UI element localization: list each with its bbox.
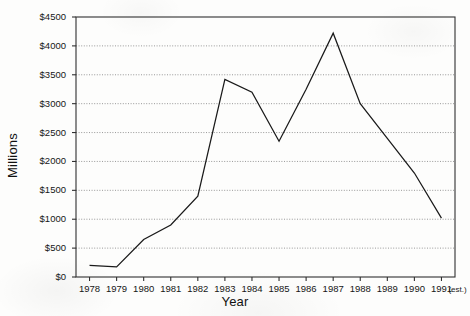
plot-frame: [76, 17, 455, 277]
x-axis-title: Year: [0, 294, 470, 309]
y-axis-tick-label: $3500: [24, 69, 66, 80]
y-axis-tick-label: $0: [24, 271, 66, 282]
y-axis-tick-label: $500: [24, 242, 66, 253]
chart-plot-area: [0, 0, 470, 316]
line-chart-figure: Millions Year $0$500$1000$1500$2000$2500…: [0, 0, 470, 316]
x-axis-estimate-note: (est.): [448, 285, 466, 294]
y-axis-tick-label: $2000: [24, 155, 66, 166]
y-axis-tick-label: $4500: [24, 11, 66, 22]
y-axis-tick-label: $1000: [24, 213, 66, 224]
y-axis-tick-label: $2500: [24, 127, 66, 138]
data-series-line: [90, 33, 442, 267]
y-axis-title: Millions: [5, 121, 20, 191]
y-axis-tick-label: $1500: [24, 184, 66, 195]
y-axis-tick-label: $4000: [24, 40, 66, 51]
y-axis-tick-label: $3000: [24, 98, 66, 109]
